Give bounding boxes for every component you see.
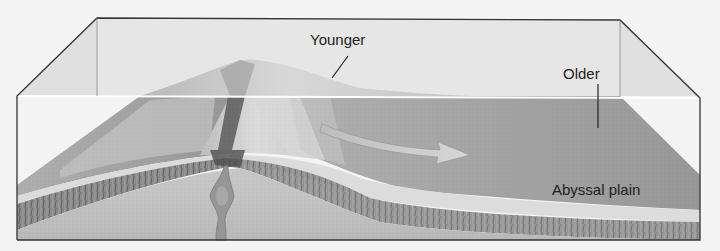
label-abyssal-plain: Abyssal plain [552,182,640,197]
label-younger: Younger [310,32,365,47]
seafloor-spreading-diagram: Younger Older Abyssal plain [0,0,720,251]
label-older: Older [563,66,600,81]
